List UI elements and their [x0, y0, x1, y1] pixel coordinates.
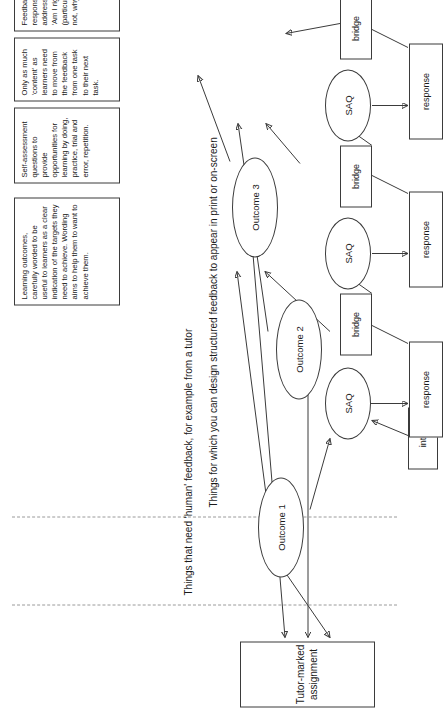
saq-1-ellipse[interactable]: SAQ	[325, 367, 371, 439]
outcome-3-ellipse[interactable]: Outcome 3	[232, 157, 278, 257]
zone-label-structured-feedback: Things for which you can design structur…	[208, 137, 219, 507]
annotation-content: Only as much 'content' as learners need …	[14, 37, 120, 101]
saq-3-ellipse[interactable]: SAQ	[325, 69, 371, 141]
response-2-box[interactable]: response	[409, 191, 443, 287]
bridge-3-box[interactable]: bridge	[340, 0, 372, 59]
annotation-feedback: Feedback responses, addressing 'Am I rig…	[14, 0, 120, 31]
response-1-box[interactable]: response	[409, 341, 443, 437]
outcome-1-ellipse[interactable]: Outcome 1	[258, 477, 304, 577]
bridge-1-box[interactable]: bridge	[340, 293, 372, 355]
tutor-marked-assignment-box[interactable]: Tutor-marked assignment	[240, 641, 375, 707]
response-3-box[interactable]: response	[409, 43, 443, 139]
zone-label-human-feedback: Things that need 'human' feedback, for e…	[183, 328, 194, 595]
zone-divider-left	[12, 604, 397, 605]
saq-2-ellipse[interactable]: SAQ	[325, 217, 371, 289]
bridge-2-box[interactable]: bridge	[340, 145, 372, 207]
zone-divider-right	[12, 516, 397, 517]
outcome-2-ellipse[interactable]: Outcome 2	[276, 299, 322, 399]
annotation-self-assessment: Self-assessment questions to provide opp…	[14, 107, 120, 183]
annotation-learning-outcomes: Learning outcomes, carefully worded to b…	[14, 197, 120, 305]
